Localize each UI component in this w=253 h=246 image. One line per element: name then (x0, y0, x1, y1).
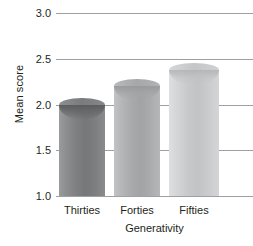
bar-body (114, 86, 160, 196)
bar-body (169, 70, 219, 196)
y-axis-tick-label: 1.0 (36, 191, 51, 202)
gridline (56, 196, 253, 197)
bar-thirties (59, 105, 105, 197)
gridline (56, 13, 253, 14)
y-axis-title: Mean score (13, 39, 25, 149)
y-axis-tick-label: 2.5 (36, 53, 51, 64)
plot-area: 1.01.52.02.53.0 (56, 13, 253, 196)
y-axis-tick-label: 3.0 (36, 8, 51, 19)
x-axis-tick-label: Fifties (157, 204, 231, 216)
y-axis-tick-label: 2.0 (36, 99, 51, 110)
bar-forties (114, 86, 160, 196)
bar-chart: Mean score 1.01.52.02.53.0 Generativity … (0, 0, 253, 246)
x-axis-title: Generativity (56, 222, 253, 234)
bar-fifties (169, 70, 219, 196)
y-axis-tick-label: 1.5 (36, 145, 51, 156)
gridline (56, 59, 253, 60)
